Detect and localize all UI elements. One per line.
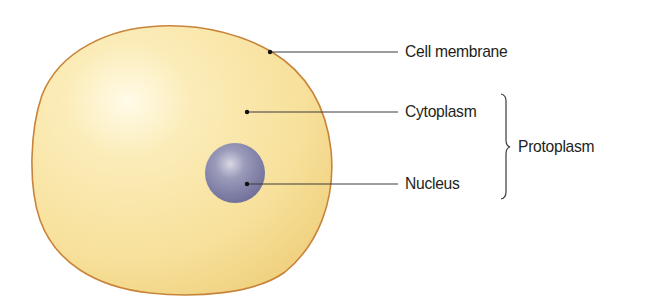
protoplasm-brace (501, 94, 510, 199)
cytoplasm-label: Cytoplasm (405, 103, 476, 120)
nucleus-pointer-dot (245, 182, 249, 186)
cell (32, 26, 332, 295)
cell-membrane-label: Cell membrane (405, 43, 507, 60)
nucleus (205, 143, 265, 203)
protoplasm-label: Protoplasm (518, 138, 594, 155)
membrane-pointer-dot (268, 50, 272, 54)
cytoplasm-pointer-dot (245, 110, 249, 114)
nucleus-label: Nucleus (405, 175, 460, 192)
cell-membrane (32, 26, 332, 295)
